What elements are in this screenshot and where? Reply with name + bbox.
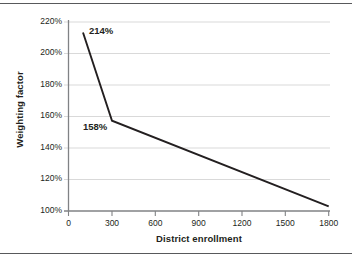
x-axis-ticks — [69, 211, 329, 216]
y-tick-label-160: 160% — [22, 111, 62, 120]
x-tick-label-900: 900 — [179, 219, 219, 228]
data-label-peak: 214% — [89, 25, 113, 36]
x-tick-label-1200: 1200 — [222, 219, 262, 228]
x-tick-label-1800: 1800 — [309, 219, 349, 228]
y-tick-label-200: 200% — [22, 48, 62, 57]
y-tick-label-100: 100% — [22, 206, 62, 215]
y-tick-label-140: 140% — [22, 143, 62, 152]
y-axis-title: Weighting factor — [14, 55, 25, 165]
chart-figure: 220% 200% 180% 160% 140% 120% 100% 0 300… — [0, 0, 352, 264]
x-tick-label-300: 300 — [92, 219, 132, 228]
gridlines — [64, 22, 330, 180]
data-label-knee: 158% — [83, 121, 107, 132]
y-tick-label-220: 220% — [22, 17, 62, 26]
x-tick-label-0: 0 — [49, 219, 89, 228]
x-tick-label-1500: 1500 — [265, 219, 305, 228]
y-tick-label-180: 180% — [22, 80, 62, 89]
y-tick-label-120: 120% — [22, 174, 62, 183]
axis-lines — [64, 20, 330, 212]
x-axis-title: District enrollment — [68, 233, 330, 244]
weighting-factor-line — [83, 33, 329, 207]
x-tick-label-600: 600 — [135, 219, 175, 228]
